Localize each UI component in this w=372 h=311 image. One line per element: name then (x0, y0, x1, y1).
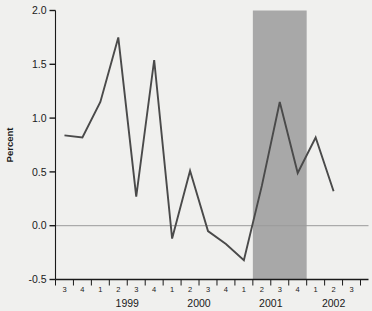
x-quarter-label: 3 (278, 285, 282, 294)
y-tick-label: 0.5 (32, 166, 47, 178)
x-quarter-label: 2 (116, 285, 120, 294)
y-tick-label: 0.0 (32, 219, 47, 231)
recession-band (253, 11, 307, 280)
x-year-label: 2002 (322, 297, 346, 309)
x-quarter-label: 4 (80, 285, 84, 294)
x-year-label: 2000 (187, 297, 211, 309)
x-quarter-label: 3 (134, 285, 138, 294)
x-quarter-label: 1 (242, 285, 246, 294)
x-quarter-label: 3 (62, 285, 66, 294)
x-quarter-label: 3 (206, 285, 210, 294)
x-quarter-label: 4 (152, 285, 156, 294)
y-tick-label: 1.0 (32, 112, 47, 124)
x-year-label: 2001 (259, 297, 283, 309)
y-axis-title-text: Percent (4, 127, 15, 163)
x-quarter-label: 2 (332, 285, 336, 294)
x-quarter-label: 2 (260, 285, 264, 294)
x-quarter-label: 4 (296, 285, 300, 294)
y-tick-label: 2.0 (32, 4, 47, 16)
x-year-label: 1999 (116, 297, 140, 309)
x-quarter-label: 2 (188, 285, 192, 294)
x-quarter-label: 4 (224, 285, 228, 294)
y-tick-label: -0.5 (28, 273, 46, 285)
recession-shading-layer (253, 11, 307, 280)
x-quarter-label: 1 (98, 285, 102, 294)
chart-container: 2.01.51.00.50.0-0.5 34123412341234123199… (0, 0, 372, 311)
x-quarter-label: 3 (349, 285, 353, 294)
line-chart: 2.01.51.00.50.0-0.5 34123412341234123199… (0, 0, 372, 311)
x-quarter-label: 1 (314, 285, 318, 294)
y-tick-label: 1.5 (32, 58, 47, 70)
y-axis-title: Percent (4, 127, 15, 163)
x-quarter-label: 1 (170, 285, 174, 294)
